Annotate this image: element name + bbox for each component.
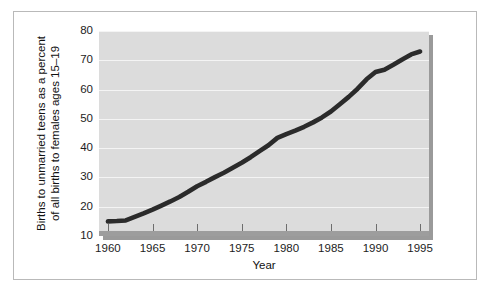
y-axis-tick-label: 10 [63,230,93,242]
y-axis-tick-label: 30 [63,171,93,183]
y-axis-tick-label: 60 [63,84,93,96]
x-axis-title: Year [99,259,429,271]
line-series [99,31,429,236]
chart-figure: 1020304050607080 19601965197019751980198… [0,0,494,295]
y-axis-title: Births to unmarried teens as a percent o… [33,31,63,236]
x-axis-tick-label: 1960 [95,242,121,254]
y-axis-tick-label: 50 [63,113,93,125]
y-axis-tick-labels: 1020304050607080 [61,31,93,236]
x-axis-tick-label: 1995 [407,242,433,254]
x-axis-tick-labels: 19601965197019751980198519901995 [99,242,429,258]
x-axis-tick-label: 1980 [274,242,300,254]
x-axis-tick-label: 1990 [363,242,389,254]
x-axis-tick-label: 1970 [184,242,210,254]
y-axis-tick-label: 40 [63,142,93,154]
plot-area [99,31,429,236]
y-axis-title-line-2: of all births to females ages 15–19 [48,46,62,221]
y-axis-tick-label: 20 [63,201,93,213]
y-axis-tick-label: 80 [63,25,93,37]
y-axis-tick-label: 70 [63,54,93,66]
y-axis-title-line-1: Births to unmarried teens as a percent [34,36,48,231]
x-axis-tick-label: 1975 [229,242,255,254]
x-axis-tick-label: 1965 [140,242,166,254]
x-axis-tick-label: 1985 [318,242,344,254]
